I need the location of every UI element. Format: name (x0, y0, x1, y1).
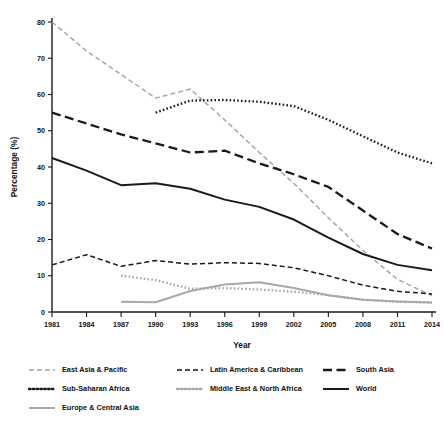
legend-item-south-asia[interactable]: South Asia (322, 365, 432, 375)
legend-item-latin-america-caribbean[interactable]: Latin America & Caribbean (176, 365, 322, 375)
legend-item-label: World (356, 384, 377, 394)
y-axis-tick-label: 50 (37, 126, 45, 135)
y-axis-tick-label: 80 (37, 18, 45, 27)
chart-legend: East Asia & PacificLatin America & Carib… (0, 352, 444, 442)
legend-line-swatch (176, 365, 204, 375)
legend-line-swatch (322, 365, 350, 375)
line-chart: 0102030405060708019811984198719901993199… (0, 0, 444, 360)
legend-item-label: South Asia (356, 365, 394, 375)
x-axis-tick-label: 2002 (286, 320, 302, 329)
legend-item-europe-central-asia[interactable]: Europe & Central Asia (28, 403, 176, 413)
y-axis-tick-label: 0 (41, 308, 45, 317)
y-axis-tick-label: 70 (37, 54, 45, 63)
series-line-europe-central-asia (121, 282, 432, 302)
x-axis-tick-label: 1987 (113, 320, 129, 329)
x-axis-tick-label: 2005 (320, 320, 336, 329)
series-line-east-asia-pacific (52, 22, 432, 296)
x-axis-title: Year (233, 340, 251, 350)
series-line-world (52, 158, 432, 270)
y-axis-title: Percentage (%) (9, 137, 19, 198)
x-axis-tick-label: 1981 (44, 320, 60, 329)
legend-line-swatch (176, 384, 204, 394)
y-axis-tick-label: 30 (37, 199, 45, 208)
chart-plot-area: 0102030405060708019811984198719901993199… (0, 0, 444, 360)
x-axis-tick-label: 1990 (148, 320, 164, 329)
y-axis-tick-label: 40 (37, 163, 45, 172)
legend-item-east-asia-pacific[interactable]: East Asia & Pacific (28, 365, 176, 375)
x-axis-tick-label: 2011 (390, 320, 406, 329)
legend-item-label: Middle East & North Africa (210, 384, 302, 394)
y-axis-tick-label: 10 (37, 271, 45, 280)
legend-line-swatch (28, 384, 56, 394)
legend-item-label: Europe & Central Asia (62, 403, 139, 413)
legend-item-label: Sub-Saharan Africa (62, 384, 129, 394)
y-axis-tick-label: 20 (37, 235, 45, 244)
x-axis-tick-label: 1993 (182, 320, 198, 329)
x-axis-tick-label: 2014 (424, 320, 440, 329)
legend-item-label: Latin America & Caribbean (210, 365, 303, 375)
x-axis-tick-label: 2008 (355, 320, 371, 329)
series-line-sub-saharan-africa (156, 100, 432, 163)
x-axis-tick-label: 1999 (251, 320, 267, 329)
x-axis-tick-label: 1996 (217, 320, 233, 329)
legend-item-sub-saharan-africa[interactable]: Sub-Saharan Africa (28, 384, 176, 394)
legend-line-swatch (28, 365, 56, 375)
legend-item-label: East Asia & Pacific (62, 365, 127, 375)
legend-line-swatch (28, 403, 56, 413)
legend-item-world[interactable]: World (322, 384, 432, 394)
legend-line-swatch (322, 384, 350, 394)
y-axis-tick-label: 60 (37, 90, 45, 99)
legend-item-middle-east-north-africa[interactable]: Middle East & North Africa (176, 384, 322, 394)
chart-page: 0102030405060708019811984198719901993199… (0, 0, 444, 442)
x-axis-tick-label: 1984 (79, 320, 95, 329)
